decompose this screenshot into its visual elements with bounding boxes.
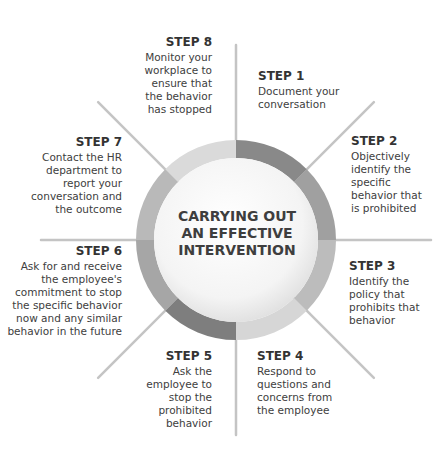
step-2: STEP 2 Objectively identify the specific…	[351, 133, 422, 215]
center-title: CARRYING OUT AN EFFECTIVE INTERVENTION	[166, 208, 308, 259]
step-6: STEP 6 Ask for and receive the employee'…	[7, 243, 122, 338]
step-title: STEP 8	[144, 34, 212, 50]
step-7: STEP 7 Contact the HR department to repo…	[31, 134, 122, 216]
step-3: STEP 3 Identify the policy that prohibit…	[349, 258, 420, 327]
step-5: STEP 5 Ask the employee to stop the proh…	[146, 348, 212, 430]
step-title: STEP 1	[258, 68, 339, 84]
step-title: STEP 3	[349, 258, 420, 274]
step-4: STEP 4 Respond to questions and concerns…	[257, 348, 332, 417]
step-title: STEP 7	[31, 134, 122, 150]
step-title: STEP 5	[146, 348, 212, 364]
step-title: STEP 2	[351, 133, 422, 149]
intervention-cycle-diagram: CARRYING OUT AN EFFECTIVE INTERVENTION S…	[0, 0, 441, 454]
step-8: STEP 8 Monitor your workplace to ensure …	[144, 34, 212, 116]
step-title: STEP 4	[257, 348, 332, 364]
step-1: STEP 1 Document your conversation	[258, 68, 339, 111]
step-title: STEP 6	[7, 243, 122, 259]
